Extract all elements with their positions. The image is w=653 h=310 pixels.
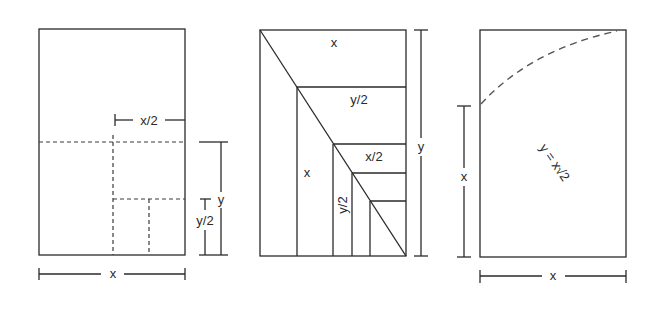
- dashed-arc: [481, 31, 617, 104]
- dimension-half-width: x/2: [115, 113, 185, 128]
- label-top: x: [331, 35, 338, 50]
- label-width: x: [110, 266, 117, 281]
- dimension-width: x: [480, 268, 626, 283]
- label-half-width: x/2: [140, 113, 157, 128]
- figure-root-two-rectangle: y = x√2 x x: [457, 30, 626, 283]
- label-side: x: [461, 169, 468, 184]
- label-height: y: [218, 192, 225, 207]
- figure-halving-rectangle: x/2 y y/2 x: [39, 29, 228, 281]
- diagram-canvas: x/2 y y/2 x: [0, 0, 653, 310]
- label-second: y/2: [350, 92, 367, 107]
- label-half-height: y/2: [196, 213, 213, 228]
- dimension-width: x: [39, 266, 185, 281]
- label-relation: y = x√2: [536, 141, 572, 184]
- dimension-height: y: [414, 30, 428, 256]
- figure-diagonal-subdivision: x y/2 x/2 x y/2 y: [260, 30, 428, 256]
- dimension-side: x: [457, 106, 471, 257]
- outer-rectangle: [480, 30, 626, 257]
- label-width: x: [550, 268, 557, 283]
- label-left-column: x: [304, 165, 311, 180]
- label-inner-column: y/2: [335, 196, 350, 213]
- label-third: x/2: [365, 149, 382, 164]
- label-height: y: [418, 139, 425, 154]
